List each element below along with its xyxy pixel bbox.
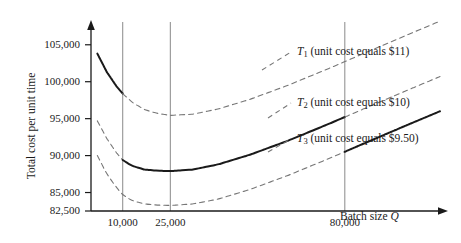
- series-label-text-T3: (unit cost equals $9.50): [308, 132, 419, 144]
- series-label-T1: T1 (unit cost equals $11): [297, 46, 409, 59]
- curve-T2-dashed-0: [97, 121, 122, 160]
- x-tick-label-25000: 25,000: [130, 217, 210, 228]
- curve-T1-solid-0: [97, 54, 122, 94]
- y-axis-arrow-icon: [87, 20, 95, 30]
- series-leader-T1: [262, 52, 291, 70]
- y-tick-label-85000: 85,000: [0, 187, 80, 198]
- x-axis-title-symbol: Q: [390, 210, 398, 222]
- y-tick-label-105000: 105,000: [0, 39, 80, 50]
- y-axis-ticks: [85, 45, 91, 211]
- y-axis-title: Total cost per unit time: [25, 46, 37, 206]
- x-axis-title-prefix: Batch size: [340, 210, 388, 222]
- chart-figure: 82,50085,00090,00095,000100,000105,000 1…: [0, 0, 461, 243]
- series-label-T2: T2 (unit cost equals $10): [297, 97, 410, 110]
- series-leader-T3: [268, 139, 291, 152]
- series-leader-T2: [268, 103, 291, 118]
- y-tick-label-100000: 100,000: [0, 76, 80, 87]
- x-axis-title: Batch size Q: [340, 210, 399, 222]
- x-axis-arrow-icon: [438, 207, 448, 215]
- y-tick-label-90000: 90,000: [0, 150, 80, 161]
- series-label-T3: T3 (unit cost equals $9.50): [297, 133, 418, 146]
- y-tick-label-95000: 95,000: [0, 113, 80, 124]
- y-tick-label-82500: 82,500: [0, 205, 80, 216]
- curve-T3-dashed-0: [97, 152, 344, 206]
- series-label-text-T1: (unit cost equals $11): [308, 45, 410, 57]
- series-label-leader-lines: [262, 52, 291, 152]
- series-label-text-T2: (unit cost equals $10): [308, 96, 410, 108]
